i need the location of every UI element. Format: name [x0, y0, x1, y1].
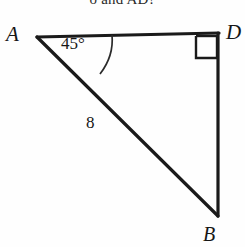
geometry-figure-page: o and AD? A D B 45° 8 — [0, 0, 245, 247]
right-angle-marker-at-D — [196, 36, 217, 58]
vertex-label-d: D — [226, 22, 241, 43]
angle-label-45: 45° — [61, 34, 85, 54]
triangle-diagram — [0, 0, 245, 247]
segment-AB — [37, 37, 218, 216]
vertex-label-b: B — [203, 224, 215, 244]
side-length-label-8: 8 — [86, 113, 95, 133]
angle-arc-at-A — [100, 35, 112, 74]
vertex-label-a: A — [6, 24, 19, 45]
